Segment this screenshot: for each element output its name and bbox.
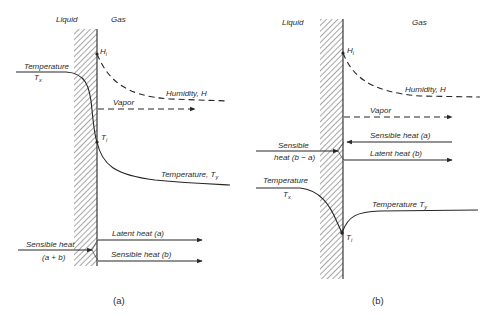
label-latent-heat: Latent heat (b) [370,149,422,158]
humidity-curve [97,54,228,101]
label-temperature-interface: Ti [101,133,108,143]
label-humidity-bulk: Humidity, H [405,85,446,94]
label-humidity-bulk: Humidity, H [166,89,207,98]
label-latent-heat: Latent heat (a) [112,229,164,238]
panel-a: Liquid Gas Hi Humidity, H Vapor Temperat… [16,15,230,306]
phase-label-gas: Gas [111,15,126,24]
label-vapor: Vapor [370,106,391,115]
label-temperature-gas: Temperature, Ty [161,170,219,180]
label-temperature-liquid: Tx [34,73,42,83]
label-temperature-liquid: Tx [283,190,291,200]
label-humidity-interface: Hi [100,47,108,57]
caption-a: (a) [113,295,125,306]
label-temperature-liquid-title: Temperature [263,176,309,185]
label-temperature-gas: Temperature Ty [372,200,428,210]
panel-b: Liquid Gas Hi Humidity, H Vapor Sensible… [256,18,480,306]
label-sensible-heat-liquid-2: heat (b − a) [274,153,315,162]
temperature-curve-gas [342,210,478,233]
label-humidity-interface: Hi [347,46,355,56]
label-sensible-heat-liquid-1: Sensible [278,141,309,150]
label-temperature-liquid-title: Temperature [24,62,70,71]
label-sensible-heat-gas: Sensible heat (a) [370,131,431,140]
caption-b: (b) [372,295,384,306]
heat-mass-transfer-figure: Liquid Gas Hi Humidity, H Vapor Temperat… [0,0,492,323]
label-sensible-heat-liquid-2: (a + b) [42,253,66,262]
phase-label-gas: Gas [412,18,427,27]
interface-film-hatch [74,29,97,266]
label-sensible-heat-gas: Sensible heat (b) [111,250,172,259]
label-vapor: Vapor [113,98,134,107]
phase-label-liquid: Liquid [282,18,304,27]
label-temperature-interface: Ti [346,233,353,243]
phase-label-liquid: Liquid [56,15,78,24]
label-sensible-heat-liquid-1: Sensible heat [26,240,75,249]
